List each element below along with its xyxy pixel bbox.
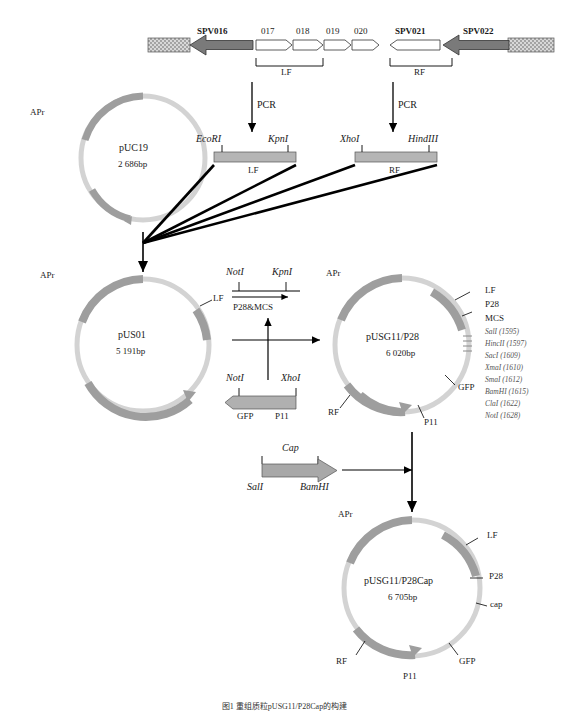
mcs-site-7: NotI (1628) [485,412,520,420]
pusg11p28-size: 6 020bp [386,349,415,358]
mcs-site-5: BamHI (1615) [485,388,529,396]
pusg11p28cap-p11-label: P11 [403,672,417,681]
pcr-label-right: PCR [398,100,417,110]
mcs-site-4: SmaI (1612) [485,376,522,384]
pusg11p28cap-gfp-label: GFP [459,657,476,666]
p28mcs-right-site: KpnI [272,267,292,277]
rf-fragment-label: RF [389,166,400,175]
pus01-name: pUS01 [118,330,146,340]
diagram-canvas [0,0,569,716]
p28mcs-left-site: NotI [226,267,244,277]
pusg11p28-name: pUSG11/P28 [366,332,419,342]
rf-right-site-label: HindIII [408,134,438,144]
ligation-lines [143,165,437,272]
p28mcs-label: P28&MCS [233,303,273,312]
pusg11p28-mcs-label: MCS [485,314,504,323]
pusg11p28cap-lf-label: LF [487,531,498,540]
p11-label: P11 [275,412,289,421]
pcr-label-left: PCR [257,100,276,110]
p28-mcs-construct [232,282,320,380]
puc19-ap-text: APr [30,107,45,117]
figure-caption: 图1 重组质粒pUSG11/P28Cap的构建 [0,700,569,711]
genome-lf-label: LF [281,68,292,77]
gfp-p11-right-site: XhoI [281,373,300,383]
pusg11p28cap-cap-label: cap [490,600,503,609]
mcs-site-3: XmaI (1610) [485,364,523,372]
gene-label-019: 019 [326,27,340,36]
mcs-site-6: ClaI (1622) [485,400,520,408]
pusg11p28-rf-label: RF [328,408,339,417]
pus01-lf-label: LF [213,294,224,303]
pusg11p28-p11-label: P11 [424,418,438,427]
gene-label-018: 018 [296,27,310,36]
gfp-p11-construct [225,388,296,409]
pusg11p28cap-rf-label: RF [336,657,347,666]
fragment-bars [214,145,437,162]
gene-label-020: 020 [354,27,368,36]
puc19-ap-marker: APr [30,108,45,117]
pusg11p28-gfp-label: GFP [458,383,475,392]
genome-rf-label: RF [414,68,425,77]
pusg11p28cap-name: pUSG11/P28Cap [364,576,433,586]
pusg11p28cap-ap-marker: APr [338,510,353,519]
pusg11p28cap-p28-label: P28 [489,572,503,581]
pusg11p28-ap-marker: APr [326,269,341,278]
gene-label-spv016: SPV016 [197,27,228,36]
pusg11p28-lf-label: LF [485,286,496,295]
cap-right-site: BamHI [300,482,329,492]
cap-label: Cap [282,443,299,453]
puc19-size: 2 686bp [118,160,147,169]
pus01-size: 5 191bp [116,347,145,356]
rf-left-site-label: XhoI [340,134,359,144]
genome-map [148,35,554,132]
plasmid-pusg11p28cap [344,520,487,657]
pusg11p28cap-size: 6 705bp [388,593,417,602]
lf-left-site-label: EcoRI [196,134,221,144]
puc19-name: pUC19 [119,143,148,153]
gfp-p11-left-site: NotI [226,373,244,383]
lf-right-site-label: KpnI [268,134,288,144]
mcs-site-0: SalI (1595) [485,328,519,336]
lf-fragment-label: LF [248,166,259,175]
cap-left-site: SalI [247,482,263,492]
gene-label-017: 017 [261,27,275,36]
gene-label-spv022: SPV022 [463,27,494,36]
mcs-site-2: SacI (1609) [485,352,520,360]
gene-label-spv021: SPV021 [395,27,426,36]
gfp-label: GFP [237,412,254,421]
mcs-site-1: HincII (1597) [485,340,526,348]
pus01-ap-marker: APr [40,271,55,280]
pusg11p28-p28-label: P28 [485,300,499,309]
